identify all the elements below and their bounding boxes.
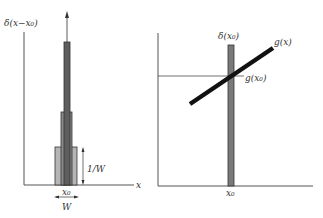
left-center-label: x₀ <box>62 187 71 197</box>
width-arrow-right-icon <box>74 196 79 199</box>
height-arrow-down-icon <box>82 180 85 185</box>
delta-arrow-head-icon <box>65 11 69 18</box>
width-arrow-left-icon <box>54 196 59 199</box>
left-panel: δ(x−x₀) x 1/W x₀ W <box>4 11 141 212</box>
g-function-label: g(x) <box>274 37 292 47</box>
narrow-pulse-bar <box>64 42 70 185</box>
height-label: 1/W <box>87 164 106 174</box>
right-center-label: x₀ <box>226 188 235 198</box>
right-panel: δ(x₀) g(x) g(x₀) x₀ <box>158 31 313 198</box>
left-x-label: x <box>136 180 141 190</box>
height-arrow-up-icon <box>82 147 85 152</box>
delta-x0-label: δ(x₀) <box>218 31 240 41</box>
delta-function-diagram: δ(x−x₀) x 1/W x₀ W δ(x₀) g(x) g(x₀) x₀ <box>0 0 323 218</box>
g-x0-label: g(x₀) <box>245 73 267 83</box>
left-y-label: δ(x−x₀) <box>4 18 38 28</box>
delta-bar <box>228 45 234 186</box>
width-label: W <box>62 202 72 212</box>
